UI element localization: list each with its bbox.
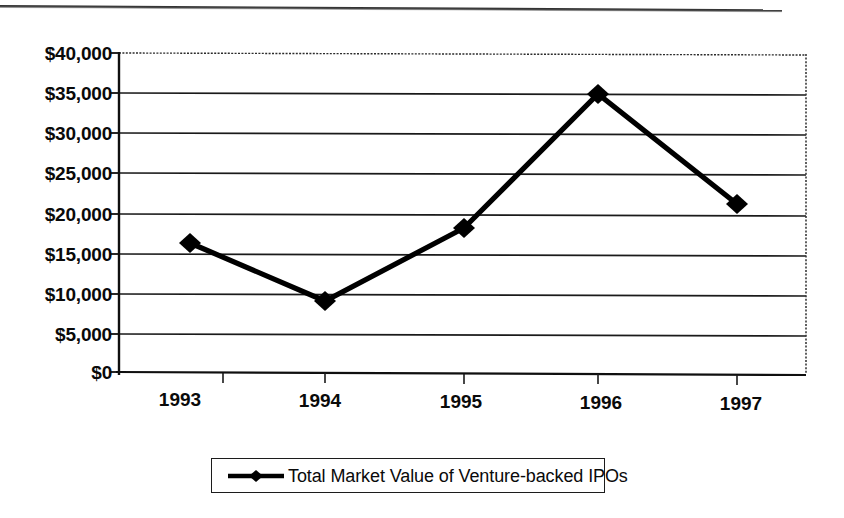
y-tick-label-5000: $5,000 [4,325,112,344]
legend-swatch-svg [228,468,284,484]
y-tick-label-10000: $10,000 [4,285,112,304]
legend-line-marker-swatch [228,468,284,484]
y-tick-label-25000: $25,000 [4,164,112,183]
line-chart-figure: $40,000 $35,000 $30,000 $25,000 $20,000 … [0,0,844,518]
legend-entry-label: Total Market Value of Venture-backed IPO… [288,467,628,485]
x-tick-label-1993: 1993 [120,390,240,409]
y-tick-label-35000: $35,000 [4,84,112,103]
chart-page: $40,000 $35,000 $30,000 $25,000 $20,000 … [0,0,844,518]
y-tick-label-20000: $20,000 [4,205,112,224]
plot-background [119,53,806,373]
x-tick-label-1994: 1994 [260,391,380,410]
y-axis-labels: $40,000 $35,000 $30,000 $25,000 $20,000 … [0,0,112,400]
x-tick-label-1995: 1995 [401,392,521,411]
y-tick-label-15000: $15,000 [4,245,112,264]
chart-legend: Total Market Value of Venture-backed IPO… [211,458,605,493]
x-tick-label-1996: 1996 [541,393,661,412]
y-tick-label-30000: $30,000 [4,124,112,143]
x-tick-label-1997: 1997 [681,394,801,413]
y-tick-label-40000: $40,000 [4,44,112,63]
x-axis-labels: 1993 1994 1995 1996 1997 [0,386,844,416]
y-tick-label-0: $0 [4,363,112,382]
plot-area-svg [0,0,844,518]
